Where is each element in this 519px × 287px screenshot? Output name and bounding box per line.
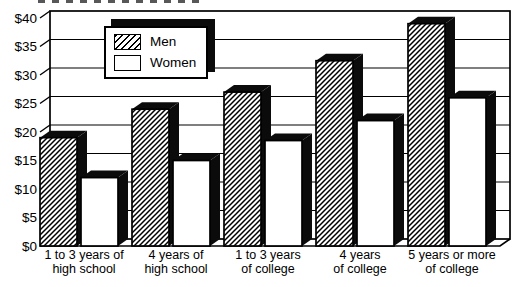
men-hatch-swatch bbox=[114, 34, 141, 50]
x-category-label-3-line-1: of college bbox=[333, 262, 387, 276]
bar-front-men-2 bbox=[224, 92, 261, 246]
y-tick-label-20: $20 bbox=[14, 125, 37, 140]
y-tick-label-10: $10 bbox=[14, 182, 37, 197]
legend-item-women: Women bbox=[114, 55, 196, 71]
y-tick-40 bbox=[40, 11, 50, 18]
bar-front-women-0 bbox=[81, 178, 118, 246]
bar-front-men-4 bbox=[408, 24, 445, 246]
y-tick-label-0: $0 bbox=[22, 239, 37, 254]
bar-front-men-3 bbox=[316, 61, 353, 246]
bar-side-women-3 bbox=[394, 114, 404, 246]
bar-front-women-3 bbox=[357, 121, 394, 246]
x-category-label-4-line-1: of college bbox=[425, 262, 479, 276]
y-tick-30 bbox=[40, 68, 50, 75]
legend-label-women: Women bbox=[150, 56, 196, 70]
bar-side-women-1 bbox=[210, 154, 220, 247]
x-category-label-1-line-1: high school bbox=[144, 262, 207, 276]
x-category-label-0-line-1: high school bbox=[52, 262, 115, 276]
x-category-label-2-line-1: of college bbox=[241, 262, 295, 276]
y-tick-25 bbox=[40, 97, 50, 104]
x-category-label-4-line-0: 5 years or more bbox=[408, 248, 496, 262]
y-tick-label-35: $35 bbox=[14, 39, 37, 54]
y-tick-label-15: $15 bbox=[14, 153, 37, 168]
bar-side-women-0 bbox=[118, 171, 128, 246]
y-tick-label-40: $40 bbox=[14, 11, 37, 26]
bar-front-women-4 bbox=[449, 98, 486, 246]
x-category-label-1-line-0: 4 years of bbox=[149, 248, 204, 262]
bar-front-women-2 bbox=[265, 141, 302, 246]
legend-box: Men Women bbox=[104, 26, 208, 79]
bar-side-women-4 bbox=[486, 91, 496, 246]
legend-item-men: Men bbox=[114, 34, 196, 50]
women-white-swatch bbox=[114, 55, 141, 71]
y-tick-label-25: $25 bbox=[14, 96, 37, 111]
bar-front-men-1 bbox=[132, 109, 169, 246]
x-category-label-2-line-0: 1 to 3 years bbox=[235, 248, 300, 262]
salary-by-education-bar-chart: $0$5$10$15$20$25$30$35$401 to 3 years of… bbox=[0, 0, 519, 287]
bar-front-men-0 bbox=[40, 138, 77, 246]
y-tick-label-5: $5 bbox=[22, 210, 37, 225]
bar-side-women-2 bbox=[302, 134, 312, 246]
bar-chart-canvas: $0$5$10$15$20$25$30$35$401 to 3 years of… bbox=[0, 0, 519, 287]
legend-label-men: Men bbox=[150, 35, 176, 49]
x-category-label-0-line-0: 1 to 3 years of bbox=[44, 248, 124, 262]
legend: Men Women bbox=[104, 26, 208, 79]
y-tick-label-30: $30 bbox=[14, 68, 37, 83]
x-category-label-3-line-0: 4 years bbox=[340, 248, 381, 262]
bar-front-women-1 bbox=[173, 161, 210, 247]
y-tick-20 bbox=[40, 125, 50, 132]
y-tick-35 bbox=[40, 40, 50, 47]
